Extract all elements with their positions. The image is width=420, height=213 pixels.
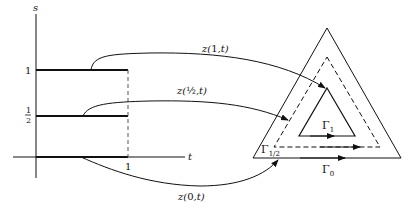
label-gamma-0: Γ0 — [322, 163, 334, 178]
svg-text:2: 2 — [26, 116, 31, 125]
arrow-z-half — [83, 101, 288, 120]
arrow-z-0 — [81, 157, 278, 186]
s-axis-label: s — [33, 2, 38, 13]
tick-t-1: 1 — [125, 161, 131, 172]
label-z-half: z(½,t) — [176, 85, 207, 96]
label-z-1: z(1,t) — [201, 43, 229, 54]
contour-gamma-half — [274, 57, 380, 147]
homotopy-diagram: s t 1 1 2 1 z(1,t) z(½,t) z(0,t) — [0, 0, 420, 213]
mapping-arrows: z(1,t) z(½,t) z(0,t) — [81, 43, 325, 202]
tick-s-1: 1 — [25, 65, 31, 76]
tick-s-half: 1 2 — [25, 106, 31, 125]
contours: Γ1 Γ1/2 Γ0 — [253, 28, 401, 178]
left-plot: s t 1 1 2 1 — [13, 2, 193, 178]
label-z-0: z(0,t) — [177, 191, 205, 202]
svg-text:1: 1 — [26, 106, 31, 115]
label-gamma-1: Γ1 — [322, 119, 334, 134]
t-axis-label: t — [188, 151, 193, 162]
contour-gamma-0 — [253, 28, 401, 158]
label-gamma-half: Γ1/2 — [261, 143, 280, 158]
